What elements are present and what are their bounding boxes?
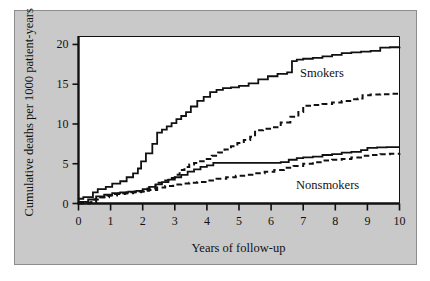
y-axis-tick-label: 15 [33, 78, 69, 90]
figure-container: Cumulative deaths per 1000 patient-years… [0, 0, 430, 281]
y-axis-tick-label: 0 [33, 198, 69, 210]
series-label-smokers: Smokers [300, 66, 344, 81]
y-axis-tick-label: 20 [33, 38, 69, 50]
series-label-nonsmokers: Nonsmokers [296, 178, 359, 193]
y-axis-tick-label: 5 [33, 158, 69, 170]
x-axis-label: Years of follow-up [78, 241, 399, 256]
y-axis-tick-label: 10 [33, 118, 69, 130]
x-axis-tick-label: 10 [380, 215, 420, 227]
